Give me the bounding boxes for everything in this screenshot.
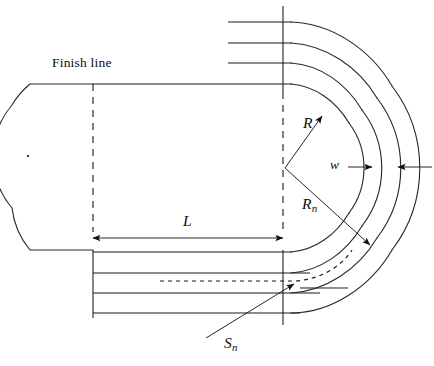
stagger-base: S (224, 334, 232, 351)
radius-rn-arrow (285, 168, 370, 245)
radius-rn-subscript: n (311, 202, 317, 214)
left-center-dot (27, 155, 29, 157)
lane-width-label: w (330, 158, 339, 172)
straight-length-label: L (183, 213, 192, 229)
finish-line-label: Finish line (52, 56, 112, 70)
stagger-leader-arrow (206, 284, 294, 338)
stagger-subscript: n (232, 341, 238, 353)
top-bend-curves (291, 22, 392, 123)
radius-r-label: R (303, 115, 312, 131)
stagger-label: Sn (224, 335, 238, 353)
top-lane-lines (93, 22, 292, 84)
radius-rn-label: Rn (302, 196, 317, 214)
inner-oval-outline (0, 84, 93, 250)
stagger-dashed-line (160, 250, 352, 281)
right-bend-arcs (349, 86, 420, 250)
bottom-lane-lines (93, 252, 348, 313)
track-diagram: Finish line R w Rn L Sn (0, 0, 434, 366)
